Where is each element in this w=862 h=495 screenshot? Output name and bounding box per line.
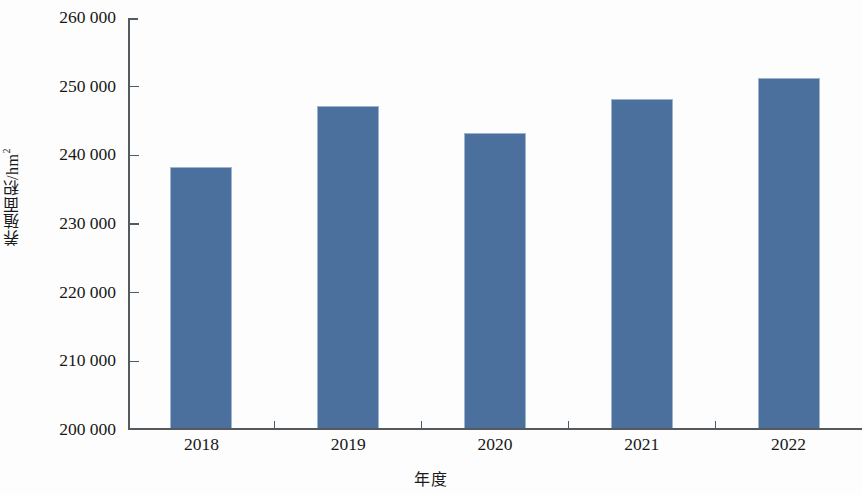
x-axis-tick bbox=[274, 421, 275, 430]
y-axis-tick bbox=[130, 86, 139, 87]
x-axis-tick bbox=[715, 421, 716, 430]
y-axis-tick-label: 240 000 bbox=[0, 146, 116, 164]
x-axis-title: 年度 bbox=[0, 466, 862, 490]
y-axis-tick-label: 260 000 bbox=[0, 9, 116, 27]
y-axis-tick-label: 220 000 bbox=[0, 284, 116, 302]
y-axis-tick bbox=[130, 155, 139, 156]
y-axis-tick bbox=[130, 361, 139, 362]
x-axis-tick bbox=[421, 421, 422, 430]
y-axis-tick-label: 200 000 bbox=[0, 421, 116, 439]
bar-2020 bbox=[464, 133, 526, 428]
y-axis-tick-label: 250 000 bbox=[0, 78, 116, 96]
y-axis-tick-label: 210 000 bbox=[0, 352, 116, 370]
bar-2019 bbox=[317, 106, 379, 429]
bar-chart: 养殖面积/hm2 200 000210 000220 000230 000240… bbox=[0, 0, 862, 495]
x-axis-tick-label: 2021 bbox=[587, 436, 697, 454]
bar-2022 bbox=[758, 78, 820, 428]
y-axis-top-cap bbox=[128, 18, 138, 20]
x-axis-tick bbox=[568, 421, 569, 430]
x-axis-tick-label: 2019 bbox=[293, 436, 403, 454]
x-axis-tick-label: 2020 bbox=[440, 436, 550, 454]
y-axis-tick-label: 230 000 bbox=[0, 215, 116, 233]
y-axis-tick bbox=[130, 223, 139, 224]
bar-2021 bbox=[611, 99, 673, 429]
x-axis-line bbox=[128, 428, 862, 430]
x-axis-tick-label: 2022 bbox=[734, 436, 844, 454]
bar-2018 bbox=[170, 167, 232, 428]
plot-area bbox=[128, 18, 862, 430]
y-axis-tick bbox=[130, 292, 139, 293]
x-axis-tick-label: 2018 bbox=[146, 436, 256, 454]
